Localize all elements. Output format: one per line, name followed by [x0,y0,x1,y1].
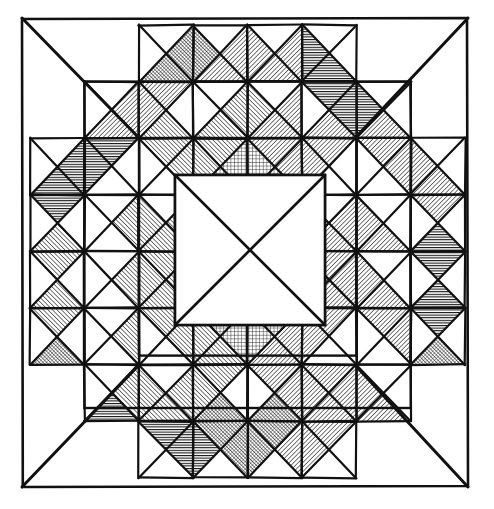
cell-edge-n [30,308,85,309]
cell-edge-e [465,138,466,195]
cell-edge-s [248,477,302,478]
cell-edge-w [193,421,194,478]
cell-edge-s [303,478,357,479]
cell-edge-e [465,251,466,308]
cell-edge-n [30,251,84,252]
cell-edge-w [247,25,248,81]
center-medallion-layer [175,175,325,325]
cell-edge-s [139,477,193,478]
cell-edge-n [138,25,193,26]
cell-edge-n [30,194,84,195]
cell-edge-w [30,308,31,364]
cell-edge-w [301,364,302,421]
cell-edge-n [84,364,139,365]
cell-edge-n [302,364,356,365]
cell-edge-n [302,24,356,25]
quilt-pattern-svg [0,0,494,509]
cell-edge-w [193,82,194,138]
cell-edge-n [247,364,302,365]
cell-edge-s [411,364,466,365]
cell-edge-n [193,421,248,422]
cell-edge-s [356,421,410,422]
quilt-figure [0,0,494,509]
cell-edge-n [247,25,301,26]
cell-edge-w [247,82,248,138]
cell-edge-w [193,25,194,81]
cell-edge-e [465,308,466,365]
